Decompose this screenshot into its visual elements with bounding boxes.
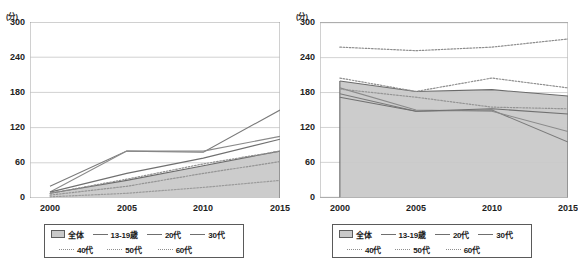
legend-item-20s[interactable]: 20代 [435, 229, 469, 240]
right-ytick-0: 0 [288, 192, 315, 202]
right-ytick-180: 180 [288, 87, 315, 97]
legend-item-total[interactable]: 全体 [51, 229, 84, 240]
left-plot-area [30, 22, 280, 198]
legend-label-20s: 20代 [165, 229, 181, 240]
left-ytick-300: 300 [0, 17, 25, 27]
left-chart-panel: (分) 300 240 180 120 60 0 [0, 0, 288, 265]
legend-label-total: 全体 [356, 229, 372, 240]
left-ytick-60: 60 [0, 157, 25, 167]
right-xtick-2015: 2015 [558, 203, 578, 213]
right-ytick-240: 240 [288, 52, 315, 62]
dotted-swatch-icon [158, 249, 173, 250]
left-xtick-2000: 2000 [40, 203, 60, 213]
left-ytick-0: 0 [0, 192, 25, 202]
line-swatch-icon [190, 234, 205, 235]
legend-item-40s[interactable]: 40代 [347, 244, 381, 255]
legend-item-30s[interactable]: 30代 [478, 229, 512, 240]
legend-item-teens[interactable]: 13-19歳 [93, 229, 138, 240]
area-swatch-icon [51, 230, 65, 238]
legend-item-50s[interactable]: 50代 [107, 244, 141, 255]
right-ytick-120: 120 [288, 122, 315, 132]
legend-label-40s: 40代 [77, 244, 93, 255]
right-xtick-2000: 2000 [330, 203, 350, 213]
right-xtick-2005: 2005 [406, 203, 426, 213]
legend-item-30s[interactable]: 30代 [190, 229, 224, 240]
line-swatch-icon [435, 234, 450, 235]
left-ytick-180: 180 [0, 87, 25, 97]
legend-label-total: 全体 [68, 229, 84, 240]
left-xtick-2015: 2015 [270, 203, 290, 213]
left-legend-row-1: 全体 13-19歳 20代 30代 [51, 228, 237, 240]
line-swatch-icon [93, 234, 108, 235]
left-ytick-240: 240 [0, 52, 25, 62]
legend-item-50s[interactable]: 50代 [395, 244, 429, 255]
dotted-swatch-icon [395, 249, 410, 250]
line-swatch-icon [478, 234, 493, 235]
legend-item-60s[interactable]: 60代 [446, 244, 480, 255]
legend-label-60s: 60代 [464, 244, 480, 255]
left-ytick-120: 120 [0, 122, 25, 132]
dotted-swatch-icon [59, 249, 74, 250]
legend-item-60s[interactable]: 60代 [158, 244, 192, 255]
dotted-swatch-icon [107, 249, 122, 250]
left-legend-row-2: 40代 50代 60代 [51, 243, 237, 255]
left-xtick-2010: 2010 [193, 203, 213, 213]
dotted-swatch-icon [347, 249, 362, 250]
right-chart-panel: (分) 300 240 180 120 60 0 [288, 0, 577, 265]
left-legend: 全体 13-19歳 20代 30代 40代 [44, 224, 244, 258]
right-ytick-300: 300 [288, 17, 315, 27]
legend-item-40s[interactable]: 40代 [59, 244, 93, 255]
dotted-swatch-icon [446, 249, 461, 250]
right-chart-svg [320, 22, 568, 198]
legend-label-60s: 60代 [176, 244, 192, 255]
right-plot-area [320, 22, 568, 198]
left-xtick-2005: 2005 [117, 203, 137, 213]
legend-label-30s: 30代 [208, 229, 224, 240]
legend-label-teens: 13-19歳 [111, 229, 138, 240]
right-ytick-60: 60 [288, 157, 315, 167]
right-legend: 全体 13-19歳 20代 30代 40代 [332, 224, 532, 258]
legend-item-teens[interactable]: 13-19歳 [381, 229, 426, 240]
line-swatch-icon [381, 234, 396, 235]
legend-label-teens: 13-19歳 [399, 229, 426, 240]
legend-item-20s[interactable]: 20代 [147, 229, 181, 240]
line-swatch-icon [147, 234, 162, 235]
legend-label-50s: 50代 [413, 244, 429, 255]
left-chart-svg [30, 22, 280, 198]
area-swatch-icon [339, 230, 353, 238]
legend-label-50s: 50代 [125, 244, 141, 255]
right-legend-row-1: 全体 13-19歳 20代 30代 [339, 228, 525, 240]
legend-label-20s: 20代 [453, 229, 469, 240]
legend-label-30s: 30代 [496, 229, 512, 240]
right-xtick-2010: 2010 [482, 203, 502, 213]
right-legend-row-2: 40代 50代 60代 [339, 243, 525, 255]
legend-label-40s: 40代 [365, 244, 381, 255]
legend-item-total[interactable]: 全体 [339, 229, 372, 240]
